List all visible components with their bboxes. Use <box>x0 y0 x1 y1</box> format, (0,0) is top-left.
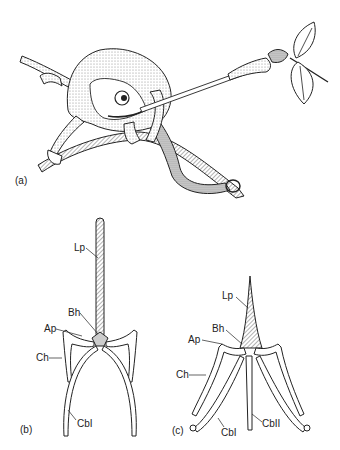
leader-lines-c <box>0 0 340 450</box>
figure: (a) Lp Bh Ap Ch CbI (b) <box>0 0 340 450</box>
